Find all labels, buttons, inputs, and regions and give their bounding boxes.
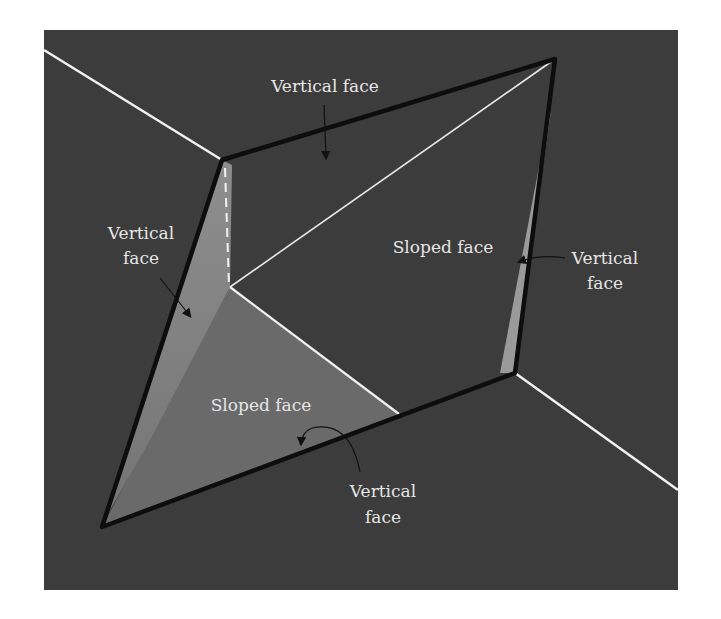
label-left-vertical-face-line2: face bbox=[123, 248, 159, 268]
label-bottom-vertical-face-line2: face bbox=[365, 507, 401, 527]
label-top-vertical-face: Vertical face bbox=[270, 76, 379, 96]
diagram-canvas: Vertical face Vertical face Sloped face … bbox=[0, 0, 721, 619]
label-right-sloped-face: Sloped face bbox=[393, 237, 494, 257]
label-bottom-sloped-face: Sloped face bbox=[211, 395, 312, 415]
label-right-vertical-face-line2: face bbox=[587, 273, 623, 293]
diagram-figure: Vertical face Vertical face Sloped face … bbox=[0, 0, 721, 619]
label-right-vertical-face-line1: Vertical bbox=[571, 248, 638, 268]
label-left-vertical-face-line1: Vertical bbox=[107, 223, 174, 243]
label-bottom-vertical-face-line1: Vertical bbox=[349, 481, 416, 501]
